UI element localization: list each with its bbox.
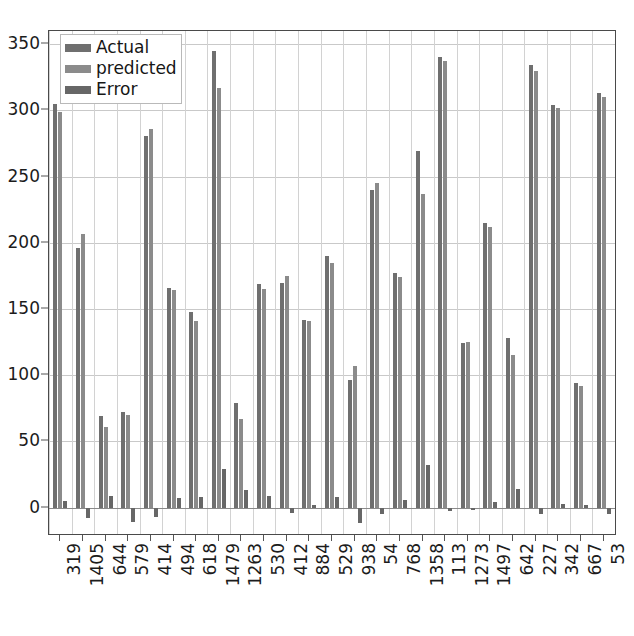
bar-error [222, 469, 226, 507]
x-tick-label: 227 [542, 543, 559, 575]
x-tick-label: 768 [406, 543, 423, 575]
legend-label-predicted: predicted [96, 60, 177, 77]
bar-group [592, 31, 615, 534]
bar-error [290, 508, 294, 513]
bar-actual [144, 136, 148, 508]
x-tick-mark [467, 535, 468, 541]
bar-actual [167, 288, 171, 508]
bar-group [275, 31, 298, 534]
x-tick-mark [308, 535, 309, 541]
x-tick-mark [240, 535, 241, 541]
x-tick-mark [354, 535, 355, 541]
bar-error [154, 508, 158, 517]
bar-actual [416, 151, 420, 507]
x-tick-mark [105, 535, 106, 541]
bar-predicted [194, 321, 198, 508]
bar-predicted [172, 290, 176, 507]
bar-group [434, 31, 457, 534]
bar-error [244, 490, 248, 507]
bar-actual [506, 338, 510, 507]
x-tick-label: 113 [451, 543, 468, 575]
legend-item-actual: Actual [65, 37, 177, 58]
y-tick-mark [41, 374, 48, 375]
x-tick-mark [399, 535, 400, 541]
x-tick-mark [444, 535, 445, 541]
bar-actual [280, 283, 284, 508]
y-tick-mark [41, 109, 48, 110]
y-tick-label: 250 [8, 167, 40, 184]
bar-group [94, 31, 117, 534]
bar-predicted [307, 321, 311, 508]
bar-group [117, 31, 140, 534]
x-tick-mark [512, 535, 513, 541]
y-tick-label: 150 [8, 299, 40, 316]
y-tick-label: 200 [8, 233, 40, 250]
bar-error [358, 508, 362, 524]
bar-predicted [353, 366, 357, 508]
x-tick-label: 1273 [474, 543, 491, 586]
x-tick-label: 618 [202, 543, 219, 575]
x-axis: 3191405644579414494618147912635304128845… [48, 535, 616, 635]
bar-predicted [511, 355, 515, 507]
x-tick-label: 319 [66, 543, 83, 575]
y-tick-mark [41, 241, 48, 242]
bar-predicted [58, 112, 62, 508]
x-tick-mark [489, 535, 490, 541]
bar-group [524, 31, 547, 534]
legend-swatch-error [65, 86, 91, 94]
bar-actual [393, 273, 397, 507]
x-tick-label: 667 [587, 543, 604, 575]
x-tick-label: 642 [519, 543, 536, 575]
y-tick-label: 0 [29, 498, 40, 515]
x-tick-mark [422, 535, 423, 541]
legend-item-predicted: predicted [65, 58, 177, 79]
bar-error [516, 489, 520, 508]
x-tick-mark [82, 535, 83, 541]
bar-error [426, 465, 430, 507]
bar-predicted [262, 289, 266, 507]
x-tick-mark [286, 535, 287, 541]
bar-group [230, 31, 253, 534]
bar-predicted [466, 342, 470, 507]
bar-actual [76, 248, 80, 507]
x-tick-label: 342 [564, 543, 581, 575]
x-tick-label: 529 [338, 543, 355, 575]
bar-group [185, 31, 208, 534]
bar-actual [121, 412, 125, 507]
bar-group [207, 31, 230, 534]
bar-predicted [421, 194, 425, 508]
x-tick-mark [557, 535, 558, 541]
bar-predicted [602, 97, 606, 507]
bar-error [403, 500, 407, 508]
x-tick-mark [195, 535, 196, 541]
x-tick-label: 1405 [89, 543, 106, 586]
bar-predicted [398, 277, 402, 507]
bar-error [109, 496, 113, 508]
bar-error [86, 508, 90, 519]
bar-error [493, 502, 497, 507]
x-tick-mark [535, 535, 536, 541]
bar-actual [99, 416, 103, 507]
x-tick-label: 494 [180, 543, 197, 575]
bar-predicted [375, 183, 379, 507]
bar-actual [483, 223, 487, 508]
bar-group [49, 31, 72, 534]
x-tick-mark [127, 535, 128, 541]
x-tick-mark [331, 535, 332, 541]
bar-actual [212, 51, 216, 508]
bar-predicted [104, 427, 108, 508]
x-tick-label: 412 [293, 543, 310, 575]
bar-group [140, 31, 163, 534]
bar-actual [257, 284, 261, 508]
bar-group [162, 31, 185, 534]
bar-actual [438, 57, 442, 507]
x-tick-label: 53 [610, 543, 627, 565]
chart-legend: Actual predicted Error [60, 34, 182, 104]
bar-actual [370, 190, 374, 508]
bar-predicted [285, 276, 289, 508]
bar-actual [234, 403, 238, 508]
x-tick-label: 644 [112, 543, 129, 575]
bar-actual [302, 320, 306, 508]
bar-group [298, 31, 321, 534]
bar-predicted [556, 108, 560, 508]
